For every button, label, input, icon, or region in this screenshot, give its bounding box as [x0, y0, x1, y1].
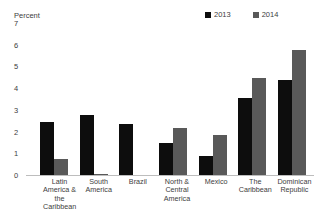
- bar-2014: [173, 128, 187, 176]
- bar-chart: Percent 2013 2014 76543210 LatinAmerica …: [0, 0, 322, 212]
- category-label: Mexico: [197, 178, 236, 212]
- category-label: Brazil: [118, 178, 157, 212]
- category-label-line: Mexico: [197, 178, 236, 186]
- y-axis-tick-3: 3: [14, 107, 24, 115]
- category-label-line: Caribbean: [236, 186, 275, 194]
- category-label: North &CentralAmerica: [157, 178, 196, 212]
- legend-swatch-2014: [253, 12, 259, 18]
- legend-item-2013: 2013: [205, 11, 231, 19]
- bar-group: [238, 24, 266, 176]
- category-labels: LatinAmerica &theCaribbeanSouthAmericaBr…: [28, 178, 322, 212]
- legend-item-2014: 2014: [253, 11, 279, 19]
- y-axis: 76543210: [14, 24, 26, 176]
- bar-2013: [159, 143, 173, 176]
- bar-group: [80, 24, 108, 176]
- category-label-line: Brazil: [118, 178, 157, 186]
- category-label-line: America: [79, 186, 118, 194]
- y-axis-tick-4: 4: [14, 85, 24, 93]
- bar-2013: [119, 124, 133, 176]
- y-axis-tick-0: 0: [14, 172, 24, 180]
- category-label: SouthAmerica: [79, 178, 118, 212]
- y-axis-tick-1: 1: [14, 150, 24, 158]
- bar-group: [278, 24, 306, 176]
- bar-group: [199, 24, 227, 176]
- x-axis-baseline: [26, 175, 314, 176]
- bar-2014: [213, 135, 227, 176]
- category-label: DominicanRepublic: [275, 178, 314, 212]
- bar-2013: [238, 98, 252, 176]
- legend-label-2014: 2014: [262, 11, 279, 19]
- category-label-line: America: [157, 195, 196, 203]
- bar-2013: [199, 156, 213, 176]
- category-label-line: Republic: [275, 186, 314, 194]
- chart-legend: 2013 2014: [205, 11, 278, 19]
- bar-2013: [278, 80, 292, 176]
- y-axis-tick-2: 2: [14, 129, 24, 137]
- category-label-line: Caribbean: [40, 203, 79, 211]
- bars-layer: [28, 24, 314, 176]
- category-label: LatinAmerica &theCaribbean: [40, 178, 79, 212]
- bar-2013: [80, 115, 94, 176]
- bar-2014: [252, 78, 266, 176]
- bar-group: [40, 24, 68, 176]
- bar-2013: [40, 122, 54, 176]
- bar-2014: [292, 50, 306, 176]
- y-axis-tick-5: 5: [14, 63, 24, 71]
- y-axis-tick-7: 7: [14, 20, 24, 28]
- bar-group: [159, 24, 187, 176]
- plot-area: 76543210: [14, 24, 314, 176]
- y-axis-tick-6: 6: [14, 42, 24, 50]
- category-label: TheCaribbean: [236, 178, 275, 212]
- legend-label-2013: 2013: [214, 11, 231, 19]
- bar-2014: [54, 159, 68, 176]
- legend-swatch-2013: [205, 12, 211, 18]
- bar-group: [119, 24, 147, 176]
